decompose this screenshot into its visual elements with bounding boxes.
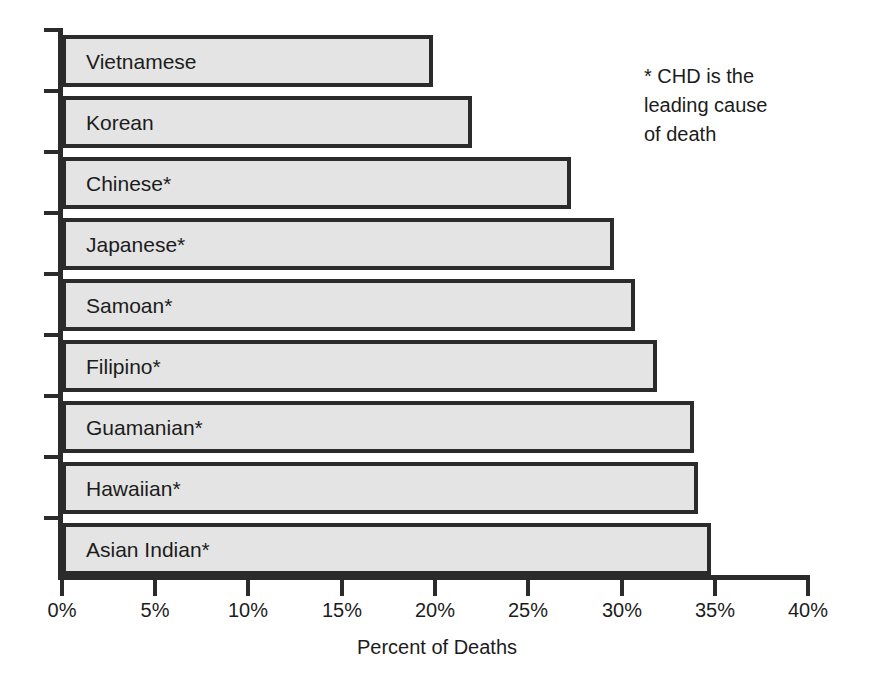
- bar-label-guamanian: Guamanian*: [86, 417, 203, 439]
- category-tick: [44, 211, 62, 215]
- bar-chart: Vietnamese Korean Chinese* Japanese* Sam…: [0, 0, 874, 690]
- x-axis-title: Percent of Deaths: [0, 635, 874, 659]
- value-tick-label: 25%: [508, 598, 548, 622]
- bar-label-asian-indian: Asian Indian*: [86, 539, 210, 561]
- bar-label-vietnamese: Vietnamese: [86, 51, 197, 73]
- bar-label-korean: Korean: [86, 112, 154, 134]
- category-tick: [44, 333, 62, 337]
- value-tick: [340, 579, 344, 596]
- value-tick: [153, 579, 157, 596]
- value-tick: [620, 579, 624, 596]
- category-tick: [44, 394, 62, 398]
- bar-label-japanese: Japanese*: [86, 234, 185, 256]
- bar-label-filipino: Filipino*: [86, 356, 161, 378]
- value-tick-label: 0%: [48, 598, 77, 622]
- category-tick: [44, 89, 62, 93]
- value-tick: [526, 579, 530, 596]
- note-line-2: leading cause: [644, 91, 824, 120]
- value-tick-label: 5%: [141, 598, 170, 622]
- bar-label-samoan: Samoan*: [86, 295, 172, 317]
- chart-annotation-note: * CHD is the leading cause of death: [644, 62, 824, 149]
- category-tick: [44, 516, 62, 520]
- bar-label-hawaiian: Hawaiian*: [86, 478, 181, 500]
- value-tick-label: 40%: [788, 598, 828, 622]
- category-tick: [44, 455, 62, 459]
- category-tick: [44, 150, 62, 154]
- bar-label-chinese: Chinese*: [86, 173, 171, 195]
- note-line-1: * CHD is the: [644, 62, 824, 91]
- value-tick: [433, 579, 437, 596]
- value-tick-label: 35%: [695, 598, 735, 622]
- value-tick: [713, 579, 717, 596]
- category-tick: [44, 28, 62, 32]
- value-tick: [806, 579, 810, 596]
- value-tick: [246, 579, 250, 596]
- value-tick-label: 20%: [415, 598, 455, 622]
- value-tick: [60, 579, 64, 596]
- category-tick: [44, 272, 62, 276]
- value-tick-label: 10%: [228, 598, 268, 622]
- note-line-3: of death: [644, 120, 824, 149]
- value-tick-label: 15%: [322, 598, 362, 622]
- value-tick-label: 30%: [602, 598, 642, 622]
